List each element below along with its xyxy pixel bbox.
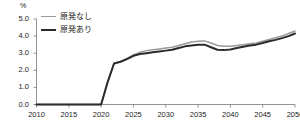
x-axis-tick-label: 2015 [56,110,82,119]
legend-item-genpatsu-nashi: 原発なし [41,11,92,22]
series-line [37,31,296,105]
y-axis-tick-label: 0.0 [7,100,29,109]
x-axis-tick-label: 2030 [153,110,179,119]
y-axis-ticks [34,19,37,105]
legend-label: 原発あり [60,25,92,34]
x-axis-tick-label: 2025 [120,110,146,119]
y-axis-tick-label: 2.0 [7,65,29,74]
legend-label: 原発なし [60,12,92,21]
x-axis-tick-label: 2040 [217,110,243,119]
x-axis-tick-label: 2045 [250,110,276,119]
x-axis-tick-label: 2050 [282,110,300,119]
chart-container: % 0.01.02.03.04.05.0 2010201520202025203… [0,0,300,128]
y-axis-tick-label: 5.0 [7,14,29,23]
data-series-group [37,31,296,105]
y-axis-tick-label: 4.0 [7,31,29,40]
x-axis-tick-label: 2010 [24,110,50,119]
x-axis-tick-label: 2035 [185,110,211,119]
y-axis-tick-label: 3.0 [7,48,29,57]
x-axis-tick-label: 2020 [88,110,114,119]
legend-item-genpatsu-ari: 原発あり [41,24,92,35]
legend-line-swatch-icon [41,29,56,31]
legend-line-swatch-icon [41,16,56,17]
series-line [37,34,296,105]
y-axis-tick-label: 1.0 [7,82,29,91]
chart-legend: 原発なし 原発あり [41,11,92,35]
